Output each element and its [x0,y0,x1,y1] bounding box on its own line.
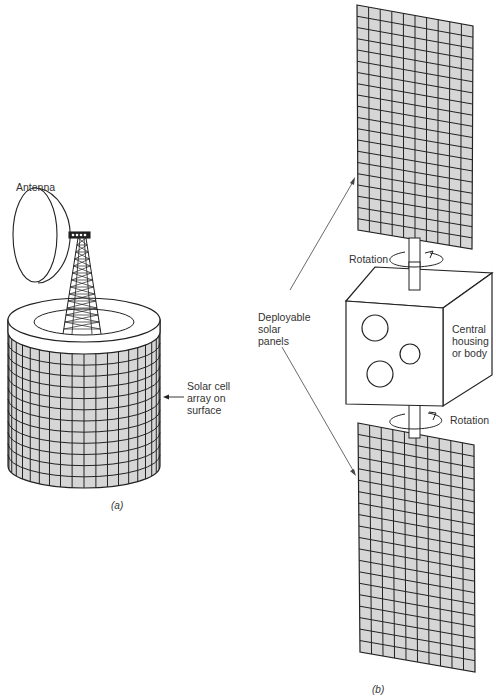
deployable-label-line3: panels [258,335,289,347]
housing-label-line2: housing [452,335,489,347]
antenna-dish-icon [13,188,90,283]
top-shaft-stub [409,262,420,290]
antenna-label: Antenna [16,181,55,193]
solar-array-label-line3: surface [187,404,221,416]
bottom-shaft [409,404,420,438]
solar-array-arrow-icon [163,395,184,400]
satellite-diagram: Antenna Solar cell array on surface (a) … [0,0,496,700]
caption-a: (a) [111,500,123,511]
rotation-label-bottom: Rotation [450,414,489,426]
top-solar-panel [357,5,473,249]
deployable-label-line1: Deployable [258,311,311,323]
bottom-solar-panel [358,423,475,672]
solar-array-label-line2: array on [187,392,226,404]
housing-label-line3: or body [452,347,487,359]
solar-array-label-line1: Solar cell [187,380,230,392]
caption-b: (b) [372,684,384,695]
housing-label-line1: Central [452,323,486,335]
cylindrical-satellite-body [8,298,160,488]
deployable-panels-arrows [282,177,356,476]
deployable-label-line2: solar [258,323,281,335]
rotation-label-top: Rotation [349,253,388,265]
diagram-artwork [0,0,496,700]
